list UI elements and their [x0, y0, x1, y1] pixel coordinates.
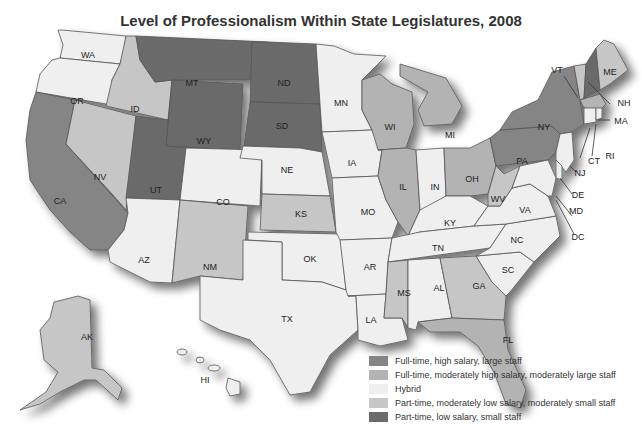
- legend-item-full-time-moderate: Full-time, moderately high salary, moder…: [369, 368, 616, 381]
- legend-item-part-time-low: Part-time, low salary, small staff: [369, 410, 616, 423]
- svg-text:HI: HI: [201, 375, 210, 385]
- svg-text:DE: DE: [572, 190, 585, 200]
- svg-text:NC: NC: [511, 235, 524, 245]
- svg-text:AL: AL: [433, 283, 444, 293]
- svg-text:UT: UT: [150, 185, 162, 195]
- svg-text:WA: WA: [81, 50, 95, 60]
- svg-text:NY: NY: [538, 122, 551, 132]
- svg-text:CT: CT: [588, 156, 600, 166]
- legend-item-full-time-high: Full-time, high salary, large staff: [369, 354, 616, 367]
- state-ri[interactable]: [596, 108, 602, 120]
- svg-text:OH: OH: [465, 174, 479, 184]
- legend-swatch: [369, 370, 388, 380]
- svg-text:AR: AR: [364, 262, 377, 272]
- state-ak[interactable]: [20, 296, 122, 410]
- state-nd[interactable]: [250, 42, 320, 104]
- svg-text:MS: MS: [397, 288, 411, 298]
- state-me[interactable]: [596, 40, 628, 90]
- state-ia[interactable]: [322, 130, 382, 178]
- legend-label: Part-time, low salary, small staff: [395, 412, 521, 422]
- svg-text:GA: GA: [472, 281, 485, 291]
- legend-label: Part-time, moderately low salary, modera…: [395, 398, 615, 408]
- svg-text:SC: SC: [502, 265, 515, 275]
- state-oh[interactable]: [444, 138, 496, 196]
- svg-text:LA: LA: [365, 315, 376, 325]
- svg-text:NV: NV: [94, 172, 107, 182]
- svg-text:IL: IL: [399, 182, 407, 192]
- state-hi[interactable]: [177, 349, 240, 396]
- svg-text:KY: KY: [444, 218, 456, 228]
- legend-swatch: [369, 398, 388, 408]
- svg-text:OK: OK: [303, 254, 316, 264]
- svg-text:CA: CA: [54, 196, 67, 206]
- legend-swatch: [369, 384, 388, 394]
- legend-label: Hybrid: [395, 384, 421, 394]
- legend-label: Full-time, moderately high salary, moder…: [395, 370, 616, 380]
- svg-text:IN: IN: [431, 182, 440, 192]
- svg-text:PA: PA: [516, 156, 527, 166]
- svg-text:WV: WV: [491, 194, 506, 204]
- svg-text:MI: MI: [445, 130, 455, 140]
- svg-text:KS: KS: [295, 209, 307, 219]
- legend: Full-time, high salary, large staff Full…: [369, 354, 616, 424]
- svg-text:TX: TX: [281, 314, 293, 324]
- svg-text:NH: NH: [618, 98, 631, 108]
- legend-label: Full-time, high salary, large staff: [395, 356, 522, 366]
- state-mt[interactable]: [136, 36, 268, 82]
- svg-text:ND: ND: [278, 78, 291, 88]
- svg-text:VT: VT: [551, 65, 563, 75]
- legend-swatch: [369, 412, 388, 422]
- svg-text:RI: RI: [606, 151, 615, 161]
- svg-text:TN: TN: [432, 243, 444, 253]
- svg-text:AZ: AZ: [138, 255, 150, 265]
- legend-item-part-time-moderate: Part-time, moderately low salary, modera…: [369, 396, 616, 409]
- svg-text:VA: VA: [519, 205, 530, 215]
- svg-text:MO: MO: [361, 207, 376, 217]
- svg-text:DC: DC: [572, 232, 585, 242]
- svg-text:AK: AK: [81, 332, 93, 342]
- svg-text:FL: FL: [503, 335, 514, 345]
- svg-text:MN: MN: [334, 98, 348, 108]
- svg-text:WI: WI: [385, 122, 396, 132]
- state-ct[interactable]: [584, 108, 596, 124]
- svg-text:WY: WY: [197, 136, 212, 146]
- svg-text:SD: SD: [276, 121, 289, 131]
- svg-text:IA: IA: [348, 158, 357, 168]
- legend-item-hybrid: Hybrid: [369, 382, 616, 395]
- svg-text:OR: OR: [70, 96, 84, 106]
- svg-text:ME: ME: [603, 67, 617, 77]
- svg-text:MT: MT: [186, 78, 199, 88]
- svg-text:NJ: NJ: [575, 168, 586, 178]
- svg-text:MA: MA: [614, 116, 628, 126]
- svg-text:CO: CO: [216, 197, 230, 207]
- legend-swatch: [369, 356, 388, 366]
- svg-text:MD: MD: [569, 206, 583, 216]
- svg-text:NM: NM: [203, 262, 217, 272]
- svg-text:ID: ID: [131, 104, 141, 114]
- svg-text:NE: NE: [281, 165, 294, 175]
